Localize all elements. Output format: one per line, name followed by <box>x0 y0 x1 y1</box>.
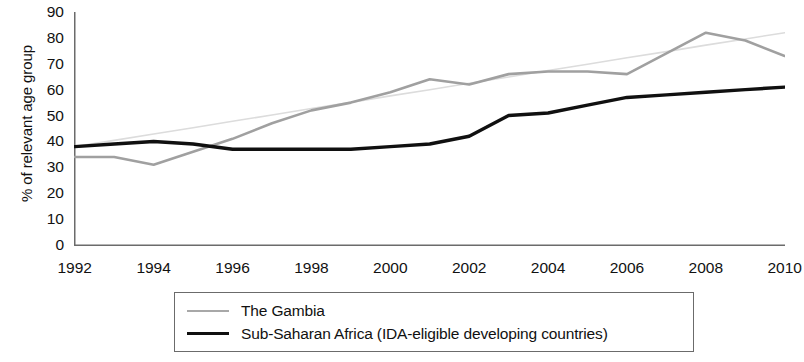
chart-figure: % of relevant age group 0102030405060708… <box>0 0 804 362</box>
x-axis-tick-label: 2000 <box>355 260 425 276</box>
legend-label: Sub-Saharan Africa (IDA-eligible develop… <box>241 325 608 343</box>
x-axis-tick-label: 2010 <box>750 260 804 276</box>
x-axis-tick-label: 2004 <box>513 260 583 276</box>
legend-label: The Gambia <box>241 302 325 320</box>
series-line-trendline <box>75 33 785 147</box>
y-axis-tick-label: 0 <box>22 237 64 253</box>
x-axis-tick-label: 2008 <box>671 260 741 276</box>
x-axis-tick-label: 1994 <box>119 260 189 276</box>
plot-area <box>74 12 785 246</box>
x-axis-tick-label: 1998 <box>276 260 346 276</box>
chart-legend: The Gambia Sub-Saharan Africa (IDA-eligi… <box>174 292 694 352</box>
legend-item-sub-saharan-africa: Sub-Saharan Africa (IDA-eligible develop… <box>187 322 683 345</box>
x-axis-tick-label: 1992 <box>40 260 110 276</box>
x-axis-tick-label: 2006 <box>592 260 662 276</box>
series-line-sub-saharan-africa-ida-eligible-developing-countries <box>75 87 785 149</box>
data-series-group <box>75 33 785 165</box>
x-axis-tick-label: 2002 <box>434 260 504 276</box>
plot-svg <box>74 12 785 246</box>
legend-swatch-line-icon <box>187 310 229 312</box>
y-axis-title: % of relevant age group <box>18 14 35 234</box>
legend-item-the-gambia: The Gambia <box>187 299 683 322</box>
x-axis-tick-label: 1996 <box>198 260 268 276</box>
legend-swatch-line-icon <box>187 332 229 335</box>
